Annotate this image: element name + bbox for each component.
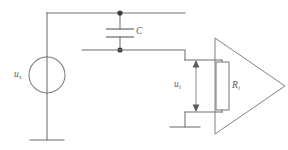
amplifier-input-bottom-wire bbox=[185, 112, 222, 127]
voltage-source-symbol bbox=[29, 57, 65, 93]
junction-dot-capacitor-top bbox=[117, 10, 122, 15]
source-label: us bbox=[14, 70, 21, 80]
input-voltage-arrow bbox=[193, 60, 200, 112]
input-voltage-label: ui bbox=[174, 80, 181, 90]
signal-wire bbox=[82, 50, 185, 60]
input-resistance-label: Ri bbox=[232, 81, 240, 91]
resistor-symbol bbox=[216, 60, 229, 112]
capacitor-symbol bbox=[106, 13, 134, 50]
circuit-schematic-canvas bbox=[0, 0, 288, 150]
circuit-diagram: us C ui Ri bbox=[0, 0, 288, 150]
capacitor-label: C bbox=[136, 27, 142, 37]
